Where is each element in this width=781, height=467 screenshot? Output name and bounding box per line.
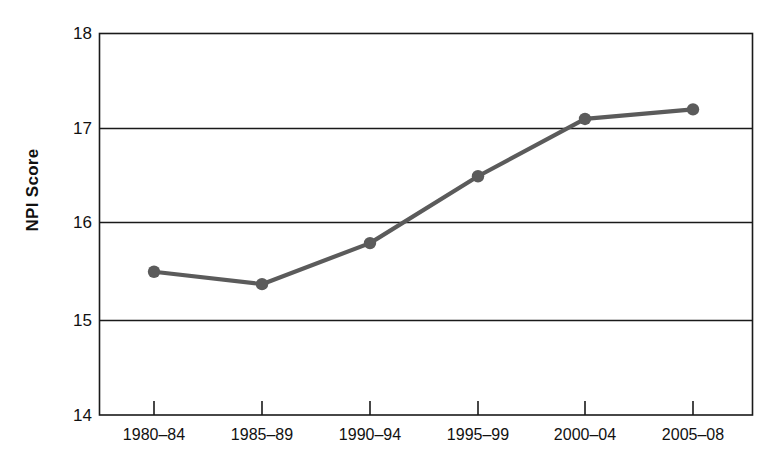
x-tick-label-2000-04: 2000–04 (525, 426, 645, 444)
x-tick-label-1985-89: 1985–89 (202, 426, 322, 444)
x-tick-label-1995-99: 1995–99 (418, 426, 538, 444)
x-tick-label-1980-84: 1980–84 (94, 426, 214, 444)
x-tick-label-1990-94: 1990–94 (310, 426, 430, 444)
x-axis-tick-labels: 1980–84 1985–89 1990–94 1995–99 2000–04 … (0, 0, 781, 467)
x-tick-label-2005-08: 2005–08 (633, 426, 753, 444)
line-chart-figure: NPI Score 18 17 16 15 14 1980–84 1985–89… (0, 0, 781, 467)
